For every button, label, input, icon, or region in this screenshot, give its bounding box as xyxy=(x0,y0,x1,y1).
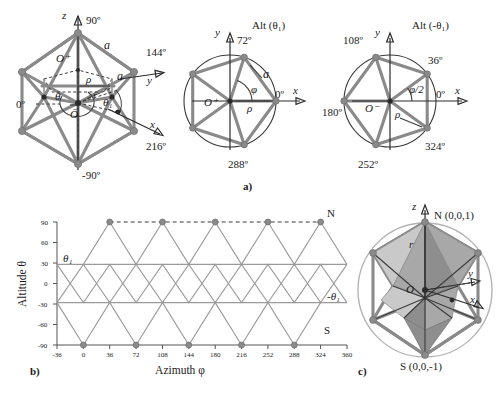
pentagon-mid-edge-a: a xyxy=(263,67,269,81)
pentagon-mid-axis-y: y xyxy=(214,26,220,38)
pentagon-mid-center: O⁺ xyxy=(204,96,219,108)
figure-svg: z 90º -90º y x ρ r θ xyxy=(0,0,501,397)
pentagon-right-axis-x: x xyxy=(454,84,460,96)
pentagon-mid-axis-x: x xyxy=(292,84,298,96)
panel-c-axis-y: y xyxy=(467,267,473,279)
xtick-108: 108 xyxy=(157,351,168,359)
ytick-60: 60 xyxy=(41,239,49,247)
xtick-144: 144 xyxy=(184,351,195,359)
edge-a-top-label: a xyxy=(104,38,110,52)
north-alt-label: 90º xyxy=(86,14,101,26)
panel-b-xlabel: Azimuth φ xyxy=(155,364,205,377)
pentagon-mid-angle-216: 216º xyxy=(146,140,167,152)
center-upper-label: O⁺ xyxy=(56,52,71,64)
figure-root: z 90º -90º y x ρ r θ xyxy=(0,0,501,397)
theta-label: θ xyxy=(55,90,61,102)
xtick-72: 72 xyxy=(133,351,141,359)
ytick--60: -60 xyxy=(38,321,48,329)
xtick-360: 360 xyxy=(342,351,353,359)
zero-azimuth-label: 0º xyxy=(16,98,26,110)
center-tilde-label: Õ xyxy=(70,108,78,120)
pentagon-right-angle-36: 36º xyxy=(428,54,443,66)
panel-label-a: a) xyxy=(243,180,253,193)
panel-label-b: b) xyxy=(30,365,40,378)
pentagon-right-angle-108: 108º xyxy=(343,34,364,46)
pentagon-mid-rho: ρ xyxy=(246,102,252,114)
axis-y-label: y xyxy=(146,74,152,86)
xtick-324: 324 xyxy=(315,351,326,359)
pentagon-right-phi-half: φ/2 xyxy=(409,83,424,95)
edge-a-right-label: a xyxy=(117,69,123,83)
ytick-0: 0 xyxy=(44,280,48,288)
pentagon-mid-angle-144: 144º xyxy=(146,46,167,58)
axis-x-label: x xyxy=(149,118,155,130)
panel-b-yticks: -90 -60 -30 0 30 60 90 xyxy=(38,219,57,350)
xtick-36: 36 xyxy=(106,351,114,359)
panel-b-plot: -90 -60 -30 0 30 60 90 -36 0 36 72 108 1… xyxy=(16,207,353,377)
pentagon-right-angle-180: 180º xyxy=(322,106,343,118)
ytick-30: 30 xyxy=(41,260,49,268)
xtick-252: 252 xyxy=(263,351,274,359)
ytick--30: -30 xyxy=(38,301,48,309)
pentagon-right-angle-252: 252º xyxy=(358,158,379,170)
panel-c-axis-z: z xyxy=(411,200,417,212)
rho-label: ρ xyxy=(85,73,91,85)
panel-b-ylabel: Altitude θ xyxy=(16,260,28,307)
ytick-90: 90 xyxy=(41,219,49,227)
xtick-180: 180 xyxy=(210,351,221,359)
panel-c-sphere: z y x r O N (0,0,1) S (0,0,-1) xyxy=(358,200,492,373)
ytick--90: -90 xyxy=(38,342,48,350)
panel-a-pentagon-mid: Alt (θ₁) y x φ ρ a O⁺ 0º 72º 144º xyxy=(146,19,305,170)
pentagon-right-rho: ρ xyxy=(394,108,400,120)
panel-b-xticks: -36 0 36 72 108 144 180 216 252 288 324 … xyxy=(52,345,352,359)
panel-a-pentagon-right: Alt (-θ₁) y x φ/2 ρ O⁻ 0º 36º 108º 180º … xyxy=(322,19,467,170)
panel-label-c: c) xyxy=(358,365,367,378)
xtick--36: -36 xyxy=(52,351,62,359)
south-alt-label: -90º xyxy=(82,169,101,181)
panel-c-radius-label: r xyxy=(409,238,414,250)
panel-c-south-pole: S (0,0,-1) xyxy=(400,360,442,373)
panel-c-north-pole: N (0,0,1) xyxy=(434,209,474,222)
pentagon-right-angle-324: 324º xyxy=(425,140,446,152)
panel-a-icosahedron: z 90º -90º y x ρ r θ xyxy=(16,9,164,181)
panel-c-center-label: O xyxy=(406,283,414,295)
pentagon-mid-angle-288: 288º xyxy=(228,158,249,170)
panel-b-theta1-label: θ₁ xyxy=(63,252,72,264)
pentagon-right-angle-0: 0º xyxy=(436,88,446,100)
panel-c-axis-x: x xyxy=(469,293,475,305)
panel-b-net xyxy=(57,222,347,345)
xtick-288: 288 xyxy=(289,351,300,359)
pentagon-mid-title: Alt (θ₁) xyxy=(252,19,286,32)
pentagon-right-axis-y: y xyxy=(374,26,380,38)
panel-b-neg-theta1-label: -θ₁ xyxy=(327,290,340,302)
pentagon-right-title: Alt (-θ₁) xyxy=(412,19,449,32)
pentagon-mid-angle-72: 72º xyxy=(237,34,252,46)
xtick-0: 0 xyxy=(82,351,86,359)
pentagon-right-center: O⁻ xyxy=(365,102,380,114)
panel-b-south-label: S xyxy=(324,324,330,336)
xtick-216: 216 xyxy=(236,351,247,359)
icosahedron-axis-y: y xyxy=(120,70,164,86)
axis-z-label: z xyxy=(61,9,67,21)
panel-b-north-label: N xyxy=(327,207,335,219)
pentagon-mid-phi: φ xyxy=(251,83,257,95)
